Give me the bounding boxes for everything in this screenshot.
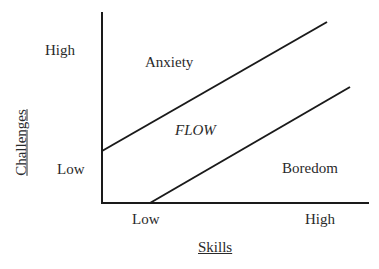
region-label-anxiety: Anxiety (145, 55, 193, 70)
x-axis-title: Skills (198, 240, 232, 255)
x-tick-high: High (305, 212, 335, 227)
y-axis-title: Challenges (14, 108, 29, 178)
region-label-flow: FLOW (175, 123, 216, 138)
y-tick-low: Low (57, 162, 85, 177)
flow-boredom-boundary-line (150, 87, 350, 203)
x-tick-low: Low (132, 212, 160, 227)
region-label-boredom: Boredom (282, 161, 338, 176)
y-tick-high: High (45, 43, 75, 58)
